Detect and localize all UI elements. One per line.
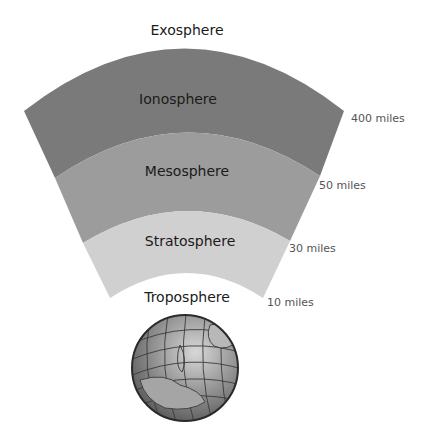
altitude-400-label: 400 miles [351,112,405,125]
exosphere-label: Exosphere [151,22,224,38]
stratosphere-label: Stratosphere [145,233,236,249]
troposphere-label: Troposphere [143,289,230,305]
mesosphere-label: Mesosphere [145,163,229,179]
atmosphere-diagram: Exosphere Ionosphere Mesosphere Stratosp… [0,0,426,426]
altitude-50-label: 50 miles [319,179,366,192]
ionosphere-label: Ionosphere [139,91,217,107]
altitude-30-label: 30 miles [289,242,336,255]
altitude-10-label: 10 miles [267,296,314,309]
earth-globe-icon [125,313,245,422]
